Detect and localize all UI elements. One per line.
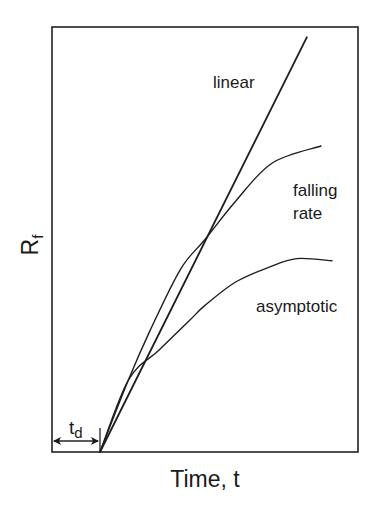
series-asymptotic-line (100, 258, 332, 452)
series-linear-line (100, 37, 307, 452)
series-layer (100, 37, 332, 452)
series-label-falling-rate-line1: falling (293, 181, 337, 200)
series-label-asymptotic: asymptotic (256, 297, 338, 316)
x-axis-label: Time, t (170, 466, 240, 492)
delay-label: td (69, 417, 83, 441)
y-axis-label: Rf (17, 234, 46, 256)
series-label-falling-rate-line2: rate (293, 204, 322, 223)
series-label-linear: linear (213, 73, 255, 92)
chart: linear falling rate asymptotic td Time, … (0, 0, 379, 506)
